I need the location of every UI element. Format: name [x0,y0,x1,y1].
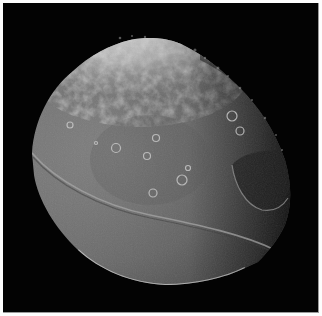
frame-edge-bottom [3,312,319,313]
moon-illustration [3,3,318,312]
frame-edge-right [318,3,319,313]
image-frame [0,0,322,316]
moon-photograph [3,3,318,312]
